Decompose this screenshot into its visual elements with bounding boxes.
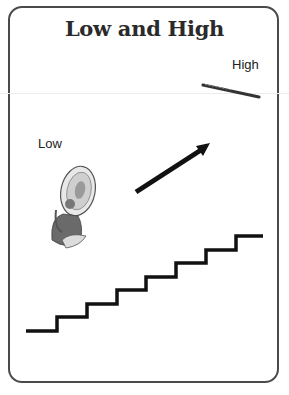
tuba-player-icon <box>52 163 100 248</box>
up-right-arrow-icon <box>136 143 210 192</box>
flute-icon <box>203 85 259 98</box>
staircase-icon <box>26 236 263 331</box>
